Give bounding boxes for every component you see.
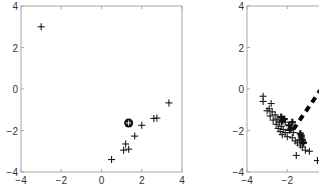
data-layer: [38, 23, 173, 163]
plus-marker: [165, 99, 172, 106]
y-tick-label: −2: [233, 126, 245, 137]
plus-marker: [289, 134, 296, 141]
y-tick-label: 0: [238, 84, 244, 95]
plus-marker: [38, 23, 45, 30]
axes-frame: [247, 6, 319, 172]
x-tick-label: 0: [99, 175, 105, 186]
x-tick-label: 2: [139, 175, 145, 186]
plus-marker: [120, 147, 127, 154]
plus-marker: [153, 115, 160, 122]
scatter-plot-left: −4−2024−4−2024: [7, 1, 186, 186]
direction-line: [293, 68, 319, 129]
plus-marker: [306, 148, 313, 155]
x-tick-label: −2: [56, 175, 68, 186]
y-tick-label: 4: [238, 1, 244, 12]
plus-marker: [108, 156, 115, 163]
plus-marker: [302, 147, 309, 154]
plus-marker: [138, 122, 145, 129]
axes-frame: [21, 6, 182, 172]
plus-marker: [293, 152, 300, 159]
plus-marker: [131, 133, 138, 140]
y-tick-label: 2: [12, 43, 18, 54]
y-tick-label: −2: [7, 126, 19, 137]
figure: −4−2024−4−2024 −4−2−4−2024: [0, 0, 319, 186]
y-tick-label: 0: [12, 84, 18, 95]
plus-marker: [260, 98, 267, 105]
scatter-plot-right: −4−2−4−2024: [233, 1, 319, 186]
x-tick-label: 4: [179, 175, 185, 186]
plus-marker: [122, 140, 129, 147]
plus-marker: [125, 146, 132, 153]
y-tick-label: −4: [233, 167, 245, 178]
plus-marker: [314, 157, 319, 164]
y-tick-label: −4: [7, 167, 19, 178]
x-tick-label: −2: [282, 175, 294, 186]
data-layer: [260, 68, 319, 164]
y-tick-label: 4: [12, 1, 18, 12]
y-tick-label: 2: [238, 43, 244, 54]
